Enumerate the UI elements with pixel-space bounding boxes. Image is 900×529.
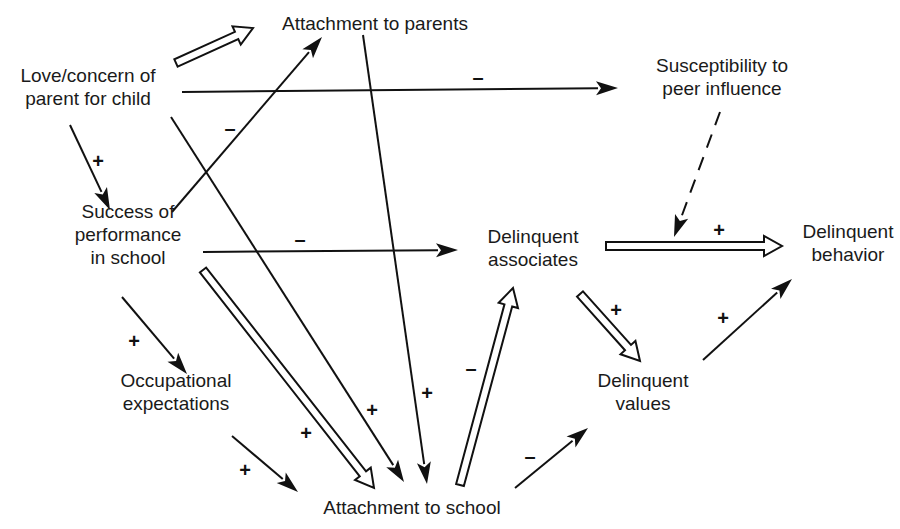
signs-layer: –++–+–+++––+++ xyxy=(92,66,729,481)
node-label-line: Occupational xyxy=(121,370,232,391)
edge-love-to-susceptibility xyxy=(182,81,618,95)
node-label-line: Delinquent xyxy=(803,221,895,242)
negative-sign: – xyxy=(524,445,535,467)
node-attach-school: Attachment to school xyxy=(323,497,500,518)
node-label-line: in school xyxy=(91,247,166,268)
node-label-line: values xyxy=(616,393,671,414)
node-label-line: Susceptibility to xyxy=(656,55,788,76)
arrowhead-icon xyxy=(436,243,458,257)
positive-sign: + xyxy=(421,382,433,404)
node-attach-parents: Attachment to parents xyxy=(282,13,468,34)
negative-sign: – xyxy=(224,117,235,139)
path-diagram: –++–+–+++––+++ Love/concern ofparent for… xyxy=(0,0,900,529)
node-label-line: peer influence xyxy=(662,78,781,99)
node-susceptibility: Susceptibility topeer influence xyxy=(656,55,788,99)
edge-success-to-attach_parents xyxy=(172,37,322,212)
node-delinq-assoc: Delinquentassociates xyxy=(488,226,580,270)
arrow-shaft xyxy=(203,250,438,252)
positive-sign: + xyxy=(366,399,378,421)
node-success: Success ofperformancein school xyxy=(75,201,182,268)
node-occupational: Occupationalexpectations xyxy=(121,370,232,414)
positive-sign: + xyxy=(717,307,729,329)
arrowhead-icon xyxy=(417,461,431,484)
edge-love-to-success xyxy=(70,125,110,210)
hollow-arrow-icon xyxy=(577,291,640,361)
arrow-shaft xyxy=(681,112,720,218)
edge-susceptibility-to-delinq_assoc_behavior_link xyxy=(674,112,720,237)
positive-sign: + xyxy=(92,150,104,172)
hollow-arrow-icon xyxy=(174,26,253,66)
node-label-line: expectations xyxy=(123,393,230,414)
positive-sign: + xyxy=(713,219,725,241)
node-label-line: Attachment to school xyxy=(323,497,500,518)
node-delinq-values: Delinquentvalues xyxy=(598,370,690,414)
arrowhead-icon xyxy=(674,214,688,237)
edge-delinq_assoc-to-delinq_behavior xyxy=(606,236,782,256)
node-label-line: Attachment to parents xyxy=(282,13,468,34)
edge-delinq_assoc-to-delinq_values xyxy=(577,291,640,361)
positive-sign: + xyxy=(239,459,251,481)
arrowhead-icon xyxy=(567,428,588,447)
node-label-line: parent for child xyxy=(25,88,151,109)
node-label-line: performance xyxy=(75,224,182,245)
edge-attach_school-to-delinq_assoc xyxy=(456,288,518,486)
node-label-line: behavior xyxy=(812,244,886,265)
arrowhead-icon xyxy=(386,460,404,482)
negative-sign: – xyxy=(472,66,483,88)
node-label-line: Delinquent xyxy=(488,226,580,247)
node-delinq-behavior: Delinquentbehavior xyxy=(803,221,895,265)
arrow-shaft xyxy=(703,292,777,360)
edge-success-to-delinq_assoc xyxy=(203,243,458,257)
edge-love-to-attach_parents xyxy=(174,26,253,66)
negative-sign: – xyxy=(294,228,305,250)
positive-sign: + xyxy=(300,422,312,444)
node-love: Love/concern ofparent for child xyxy=(20,65,156,109)
node-label-line: Love/concern of xyxy=(20,65,156,86)
arrow-shaft xyxy=(182,88,598,92)
node-label-line: Success of xyxy=(82,201,176,222)
positive-sign: + xyxy=(610,299,622,321)
hollow-arrow-icon xyxy=(456,288,518,486)
diagram-canvas: –++–+–+++––+++ Love/concern ofparent for… xyxy=(0,0,900,529)
arrowhead-icon xyxy=(596,81,618,95)
arrow-shaft xyxy=(172,52,309,212)
hollow-arrow-icon xyxy=(606,236,782,256)
node-label-line: associates xyxy=(488,249,578,270)
negative-sign: – xyxy=(465,357,476,379)
positive-sign: + xyxy=(128,330,140,352)
node-label-line: Delinquent xyxy=(598,370,690,391)
